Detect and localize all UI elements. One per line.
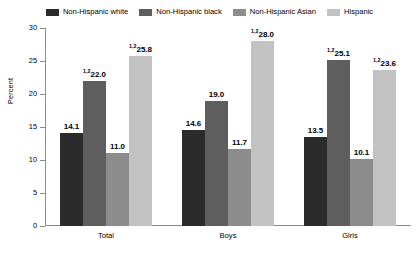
y-axis-tick-label: 0 xyxy=(33,221,37,230)
bar-value-label: 1,228.0 xyxy=(251,30,274,39)
y-axis-tick-label: 30 xyxy=(29,23,37,32)
legend-item-non-hispanic-asian: Non-Hispanic Asian xyxy=(233,8,316,16)
bar-group: 14.11,222.011.01,225.8Total xyxy=(45,28,167,226)
y-axis-tick-label: 10 xyxy=(29,155,37,164)
legend-item-non-hispanic-black: Non-Hispanic black xyxy=(139,8,221,16)
plot-area: 051015202530 14.11,222.011.01,225.8Total… xyxy=(45,28,411,226)
bar-value-label: 1,222.0 xyxy=(83,70,106,79)
bar-value-label: 1,225.8 xyxy=(129,45,152,54)
bar[interactable]: 1,225.8 xyxy=(129,56,152,226)
bar[interactable]: 11.7 xyxy=(228,149,251,226)
bar-value-label: 1,225.1 xyxy=(327,49,350,58)
bar[interactable]: 14.1 xyxy=(60,133,83,226)
legend-swatch-icon xyxy=(46,9,59,16)
legend-swatch-icon xyxy=(327,9,340,16)
legend-item-hispanic: Hispanic xyxy=(327,8,373,16)
footnote-marker: 1,2 xyxy=(83,68,91,74)
y-axis-title: Percent xyxy=(6,78,15,104)
bar[interactable]: 1,225.1 xyxy=(327,60,350,226)
bar-value-label: 11.0 xyxy=(110,142,125,151)
legend-item-non-hispanic-white: Non-Hispanic white xyxy=(46,8,128,16)
y-axis-tick-label: 20 xyxy=(29,89,37,98)
footnote-marker: 1,2 xyxy=(129,43,137,49)
footnote-marker: 1,2 xyxy=(327,48,335,54)
legend-label: Non-Hispanic black xyxy=(156,8,221,16)
bar-chart: Non-Hispanic white Non-Hispanic black No… xyxy=(0,0,419,257)
legend-swatch-icon xyxy=(139,9,152,16)
footnote-marker: 1,2 xyxy=(251,29,259,35)
bar[interactable]: 11.0 xyxy=(106,153,129,226)
bar-value-label: 14.1 xyxy=(64,122,80,131)
bar[interactable]: 19.0 xyxy=(205,101,228,226)
x-axis-tick-label: Total xyxy=(98,231,114,240)
x-axis-tick-label: Girls xyxy=(342,231,358,240)
y-axis-tick: 0 xyxy=(40,226,45,227)
footnote-marker: 1,2 xyxy=(373,58,381,64)
bar-value-label: 14.6 xyxy=(186,119,202,128)
legend-label: Non-Hispanic white xyxy=(63,8,128,16)
bar-group: 14.619.011.71,228.0Boys xyxy=(167,28,289,226)
legend-swatch-icon xyxy=(233,9,246,16)
x-axis-tick-label: Boys xyxy=(220,231,237,240)
bar[interactable]: 1,228.0 xyxy=(251,41,274,226)
bar[interactable]: 13.5 xyxy=(304,137,327,226)
bar-value-label: 19.0 xyxy=(209,90,225,99)
legend-label: Non-Hispanic Asian xyxy=(250,8,316,16)
bar[interactable]: 14.6 xyxy=(182,130,205,226)
legend-label: Hispanic xyxy=(344,8,373,16)
bar-value-label: 1,223.6 xyxy=(373,59,396,68)
bar-value-label: 10.1 xyxy=(354,148,370,157)
chart-legend: Non-Hispanic white Non-Hispanic black No… xyxy=(0,8,419,16)
bar[interactable]: 10.1 xyxy=(350,159,373,226)
bar[interactable]: 1,222.0 xyxy=(83,81,106,226)
y-axis-tick-label: 15 xyxy=(29,122,37,131)
bar[interactable]: 1,223.6 xyxy=(373,70,396,226)
y-axis-tick-label: 5 xyxy=(33,188,37,197)
bar-value-label: 11.7 xyxy=(232,138,247,147)
bar-value-label: 13.5 xyxy=(308,126,324,135)
y-axis-tick-label: 25 xyxy=(29,56,37,65)
bar-groups: 14.11,222.011.01,225.8Total14.619.011.71… xyxy=(45,28,411,226)
bar-group: 13.51,225.110.11,223.6Girls xyxy=(289,28,411,226)
